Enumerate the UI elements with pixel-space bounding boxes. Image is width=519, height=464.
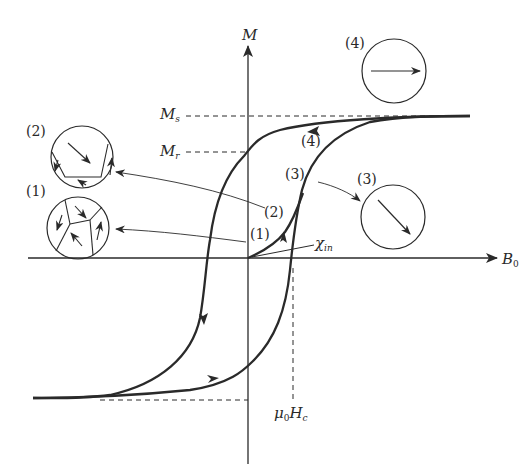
mr-label: Mr <box>160 144 180 161</box>
ms-main: M <box>160 105 175 123</box>
mu0hc-label: μ0Hc <box>274 406 308 423</box>
m-axis-label: M <box>242 28 257 43</box>
mr-sub: r <box>175 151 179 161</box>
curve-label-1: (1) <box>250 227 270 241</box>
leader-1 <box>116 229 246 242</box>
domain-label-1: (1) <box>26 184 46 198</box>
ms-label: Ms <box>160 107 180 124</box>
mr-main: M <box>160 142 175 160</box>
domain-label-4: (4) <box>345 36 365 50</box>
curve-label-4: (4) <box>301 134 321 148</box>
leader-2 <box>116 172 265 208</box>
mu-main: μ <box>274 404 284 422</box>
domain-circle-2 <box>51 126 113 188</box>
domain-label-2: (2) <box>26 124 46 138</box>
domain-circle-1 <box>47 197 109 259</box>
b0-sub: 0 <box>513 259 519 269</box>
curve-label-3: (3) <box>285 167 305 181</box>
ms-sub: s <box>175 114 180 124</box>
b0-axis-label: B0 <box>502 252 519 269</box>
chi-main: χ <box>315 234 324 252</box>
b0-main: B <box>502 250 513 268</box>
chi-sub: in <box>324 243 333 253</box>
arrow-right-bottom-icon <box>207 375 219 383</box>
domain-label-3: (3) <box>357 172 377 186</box>
h-main: H <box>289 404 302 422</box>
curve-label-2: (2) <box>264 205 284 219</box>
hc-sub: c <box>303 413 308 423</box>
chi-in-label: χin <box>315 236 333 253</box>
domain-circle-3 <box>361 185 425 249</box>
leader-3 <box>318 182 360 201</box>
domain-circle-4 <box>362 39 426 103</box>
